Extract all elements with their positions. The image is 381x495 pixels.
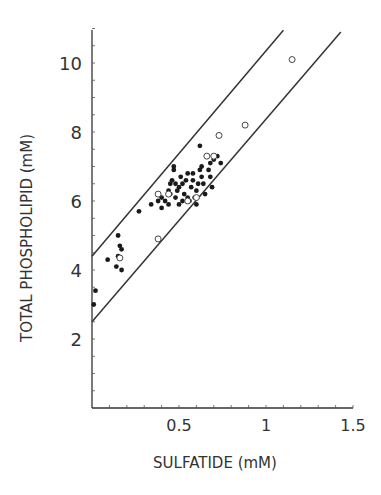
open-data-point bbox=[155, 191, 161, 197]
filled-data-point bbox=[199, 174, 204, 179]
filled-data-point bbox=[93, 288, 98, 293]
filled-data-point bbox=[180, 181, 185, 186]
upper-bound-line bbox=[92, 30, 283, 256]
filled-data-point bbox=[185, 171, 190, 176]
bound-lines bbox=[92, 30, 341, 322]
filled-data-point bbox=[171, 164, 176, 169]
filled-data-point bbox=[137, 209, 142, 214]
filled-data-point bbox=[208, 161, 213, 166]
x-tick-label: 0.5 bbox=[166, 416, 191, 435]
filled-data-point bbox=[149, 202, 154, 207]
filled-data-point bbox=[178, 174, 183, 179]
filled-data-point bbox=[177, 185, 182, 190]
data-points bbox=[91, 57, 295, 307]
filled-data-point bbox=[194, 188, 199, 193]
filled-data-point bbox=[163, 199, 168, 204]
filled-data-point bbox=[119, 247, 124, 252]
filled-data-point bbox=[199, 164, 204, 169]
open-data-point bbox=[166, 191, 172, 197]
filled-data-point bbox=[170, 178, 175, 183]
filled-data-point bbox=[173, 181, 178, 186]
filled-data-point bbox=[210, 185, 215, 190]
filled-data-point bbox=[119, 268, 124, 273]
filled-data-point bbox=[206, 168, 211, 173]
filled-data-point bbox=[196, 181, 201, 186]
filled-data-point bbox=[201, 181, 206, 186]
filled-data-point bbox=[91, 302, 96, 307]
filled-data-point bbox=[180, 199, 185, 204]
filled-data-point bbox=[218, 161, 223, 166]
axes: 2468100.511.5 bbox=[59, 29, 366, 436]
filled-data-point bbox=[191, 178, 196, 183]
open-data-point bbox=[242, 122, 248, 128]
filled-data-point bbox=[194, 202, 199, 207]
x-axis-label: SULFATIDE (mM) bbox=[153, 454, 277, 472]
scatter-plot: 2468100.511.5 SULFATIDE (mM) TOTAL PHOSP… bbox=[0, 0, 381, 495]
filled-data-point bbox=[173, 195, 178, 200]
open-data-point bbox=[117, 255, 123, 261]
filled-data-point bbox=[116, 233, 121, 238]
filled-data-point bbox=[105, 257, 110, 262]
x-tick-label: 1 bbox=[261, 416, 271, 435]
filled-data-point bbox=[208, 174, 213, 179]
filled-data-point bbox=[177, 202, 182, 207]
lower-bound-line bbox=[92, 32, 341, 322]
filled-data-point bbox=[159, 206, 164, 211]
filled-data-point bbox=[191, 171, 196, 176]
open-data-point bbox=[193, 195, 199, 201]
y-tick-label: 6 bbox=[71, 191, 82, 212]
filled-data-point bbox=[197, 143, 202, 148]
filled-data-point bbox=[166, 202, 171, 207]
y-tick-label: 4 bbox=[71, 260, 82, 281]
filled-data-point bbox=[189, 185, 194, 190]
filled-data-point bbox=[114, 264, 119, 269]
y-tick-label: 2 bbox=[71, 329, 82, 350]
open-data-point bbox=[216, 132, 222, 138]
filled-data-point bbox=[182, 192, 187, 197]
open-data-point bbox=[155, 236, 161, 242]
filled-data-point bbox=[156, 199, 161, 204]
y-tick-label: 10 bbox=[59, 53, 82, 74]
open-data-point bbox=[185, 198, 191, 204]
x-tick-label: 1.5 bbox=[340, 416, 365, 435]
filled-data-point bbox=[203, 192, 208, 197]
y-tick-label: 8 bbox=[71, 122, 82, 143]
open-data-point bbox=[204, 153, 210, 159]
open-data-point bbox=[289, 57, 295, 63]
filled-data-point bbox=[184, 178, 189, 183]
open-data-point bbox=[211, 153, 217, 159]
y-axis-label: TOTAL PHOSPHOLIPID (mM) bbox=[18, 134, 36, 343]
